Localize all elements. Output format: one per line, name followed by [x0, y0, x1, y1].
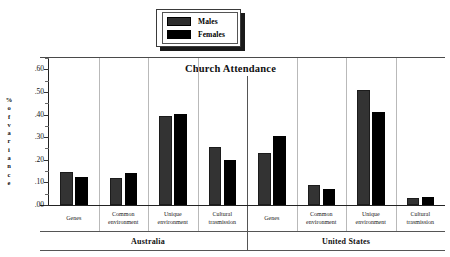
legend-swatch-females — [167, 30, 191, 39]
bar-females — [75, 177, 88, 205]
category-separator — [396, 58, 397, 205]
category-label-line: Genes — [264, 215, 279, 222]
legend-label-females: Females — [198, 31, 225, 39]
bar-males — [60, 172, 73, 205]
y-tick-label: .30 — [4, 133, 44, 141]
category-label-line: Unique — [356, 211, 386, 218]
category-separator — [198, 58, 199, 205]
legend-item-females: Females — [167, 29, 233, 41]
category-label-line: environment — [158, 219, 188, 226]
y-tick-label: .50 — [4, 88, 44, 96]
legend-item-males: Males — [167, 16, 233, 28]
y-tick-label: .00 — [4, 201, 44, 209]
category-label-line: trasmission — [209, 219, 236, 226]
group-axis: AustraliaUnited States — [40, 232, 445, 251]
category-strip-separator — [99, 206, 100, 231]
group-bottom-rule — [40, 250, 445, 251]
category-separator — [297, 58, 298, 205]
group-label: United States — [247, 232, 445, 251]
y-tick-label: .10 — [4, 178, 44, 186]
category-label-line: Common — [306, 211, 336, 218]
category-label-line: Common — [108, 211, 138, 218]
bar-females — [174, 114, 187, 205]
category-strip-separator — [148, 206, 149, 231]
category-label-line: trasmission — [407, 219, 434, 226]
bar-females — [422, 197, 435, 205]
legend-swatch-males — [167, 17, 191, 26]
category-label-line: environment — [356, 219, 386, 226]
category-label: Culturaltrasmission — [198, 206, 248, 231]
category-label: Commonenvironment — [297, 206, 347, 231]
bar-males — [258, 153, 271, 205]
category-label: Uniqueenvironment — [148, 206, 198, 231]
bar-males — [209, 147, 222, 205]
group-separator — [247, 76, 248, 205]
bar-males — [110, 178, 123, 205]
plot-area — [49, 58, 445, 205]
category-separator — [346, 58, 347, 205]
group-label: Australia — [49, 232, 247, 251]
category-strip-separator — [346, 206, 347, 231]
category-label: Uniqueenvironment — [346, 206, 396, 231]
bar-males — [357, 90, 370, 205]
y-tick-label: .60 — [4, 65, 44, 73]
y-tick-label: .20 — [4, 156, 44, 164]
bar-females — [224, 160, 237, 205]
bar-females — [323, 189, 336, 205]
bar-males — [159, 116, 172, 205]
category-label-line: Unique — [158, 211, 188, 218]
category-label: Genes — [49, 206, 99, 231]
bar-males — [308, 185, 321, 205]
category-separator — [148, 58, 149, 205]
group-strip-separator — [247, 206, 248, 251]
category-label: Genes — [247, 206, 297, 231]
category-label: Commonenvironment — [99, 206, 149, 231]
category-label-line: environment — [108, 219, 138, 226]
category-strip-separator — [297, 206, 298, 231]
bar-females — [273, 136, 286, 205]
category-label: Culturaltrasmission — [396, 206, 446, 231]
category-separator — [99, 58, 100, 205]
legend-label-males: Males — [198, 18, 218, 26]
bar-males — [407, 198, 420, 205]
category-axis: GenesCommonenvironmentUniqueenvironmentC… — [40, 206, 445, 231]
category-label-line: Genes — [66, 215, 81, 222]
category-label-line: Cultural — [209, 211, 236, 218]
category-label-line: environment — [306, 219, 336, 226]
legend: Males Females — [162, 12, 238, 44]
category-label-line: Cultural — [407, 211, 434, 218]
y-axis-labels: .00.10.20.30.40.50.60 — [0, 0, 44, 257]
bar-females — [372, 112, 385, 205]
category-strip-separator — [396, 206, 397, 231]
chart-root: Males Females %ofvariance .00.10.20.30.4… — [0, 0, 450, 257]
y-tick-label: .40 — [4, 111, 44, 119]
category-strip-separator — [198, 206, 199, 231]
bar-females — [125, 173, 138, 205]
